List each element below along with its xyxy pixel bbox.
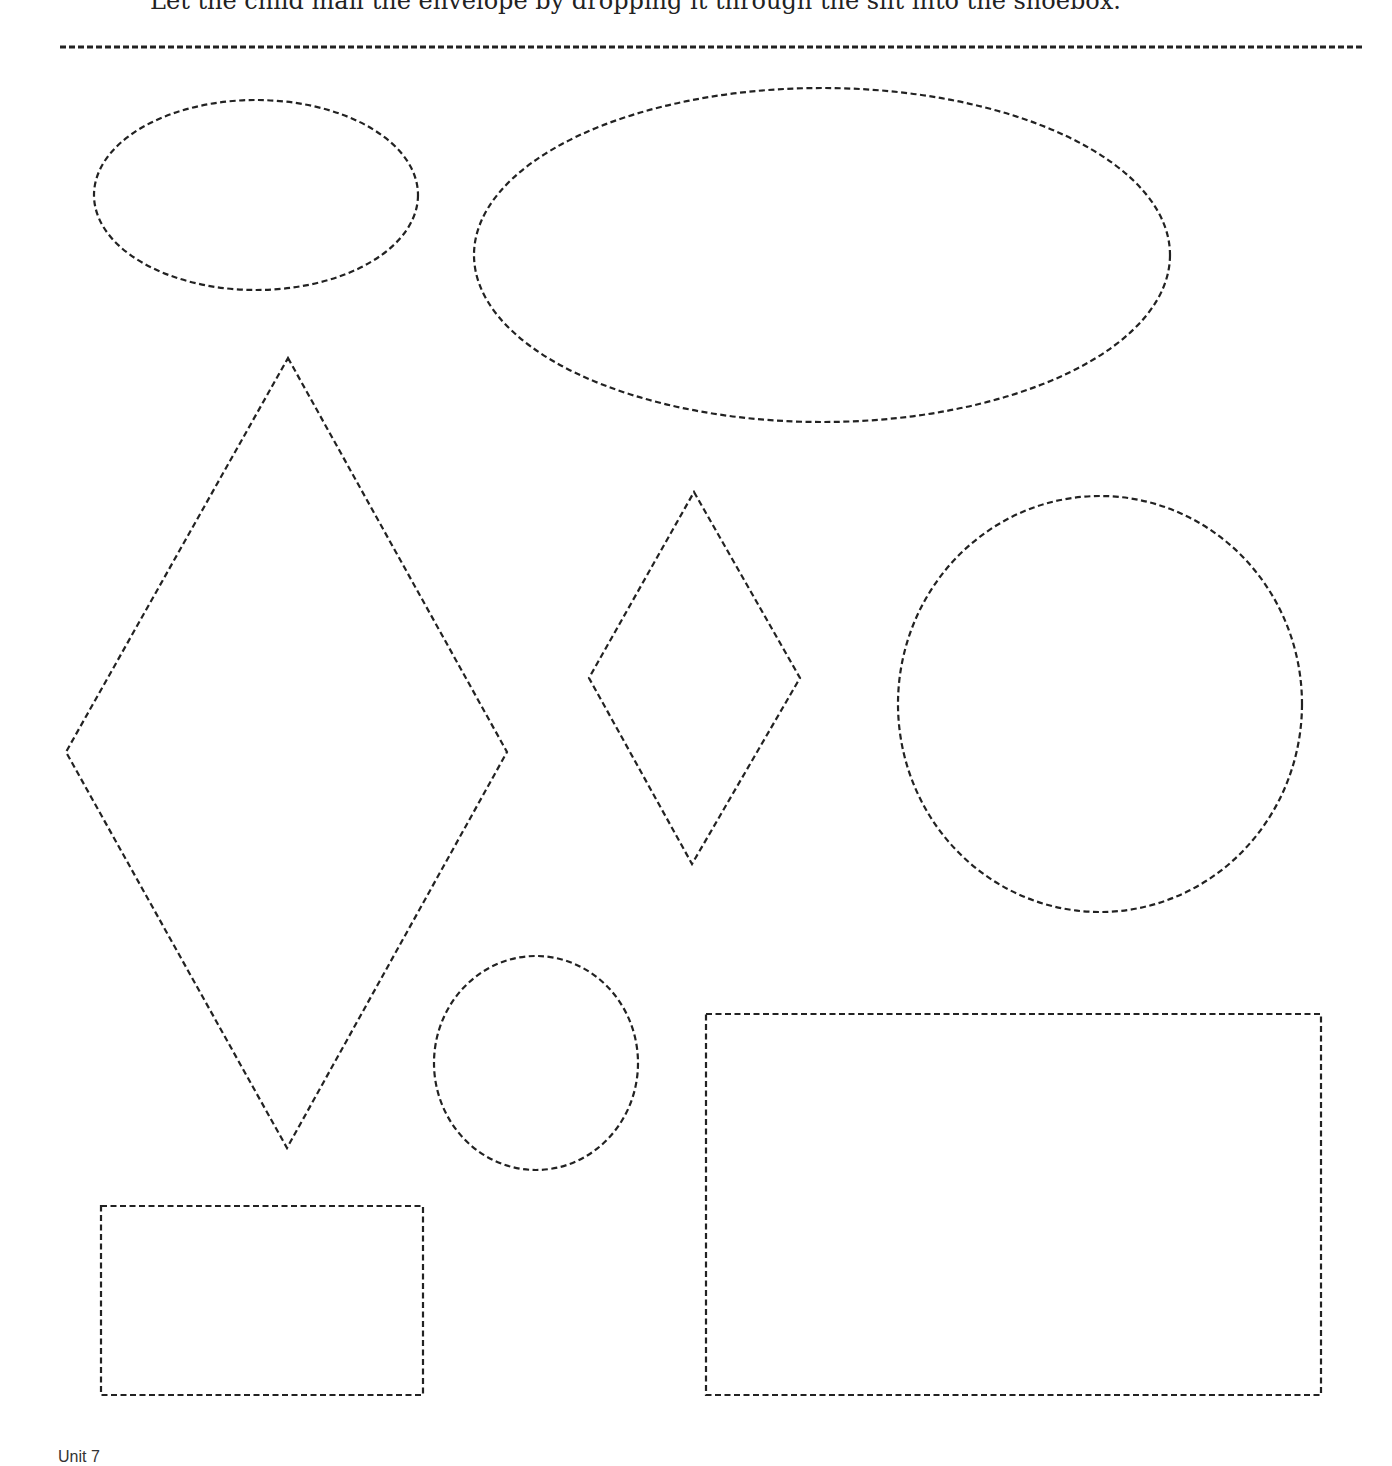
- footer-unit-label: Unit 7: [58, 1448, 100, 1466]
- large-circle-shape: [898, 496, 1302, 912]
- small-circle-shape: [434, 956, 638, 1170]
- large-rectangle-shape: [706, 1014, 1321, 1395]
- small-rectangle-shape: [101, 1206, 423, 1395]
- large-ellipse-shape: [474, 88, 1170, 422]
- shape-layer: [66, 88, 1321, 1395]
- small-ellipse-shape: [94, 100, 418, 290]
- large-diamond-shape: [66, 358, 507, 1148]
- small-diamond-shape: [589, 492, 800, 864]
